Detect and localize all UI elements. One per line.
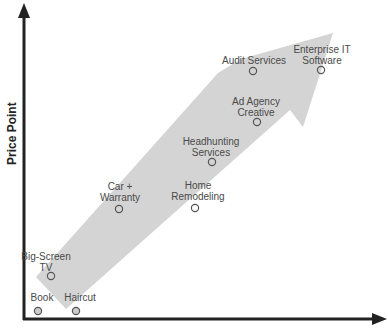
marker-home-remodeling: [191, 204, 198, 211]
label-line: Audit Services: [222, 55, 286, 66]
label-audit-services: Audit Services: [222, 55, 286, 66]
label-line: Car +: [100, 181, 140, 192]
y-axis-label: Price Point: [5, 102, 19, 165]
label-home-remodeling: Home Remodeling: [171, 180, 224, 202]
label-line: Creative: [232, 107, 280, 118]
label-line: Home: [171, 180, 224, 191]
marker-book: [34, 307, 41, 314]
label-haircut: Haircut: [64, 292, 96, 303]
label-line: Book: [31, 292, 54, 303]
label-big-screen-tv: Big-Screen TV: [21, 251, 70, 273]
label-line: TV: [21, 262, 70, 273]
label-line: Enterprise IT: [293, 44, 350, 55]
label-line: Haircut: [64, 292, 96, 303]
label-line: Warranty: [100, 192, 140, 203]
trend-arrow: [36, 33, 333, 309]
label-enterprise-it: Enterprise IT Software: [293, 44, 350, 66]
marker-haircut: [72, 307, 79, 314]
label-line: Big-Screen: [21, 251, 70, 262]
label-line: Remodeling: [171, 191, 224, 202]
label-line: Headhunting: [183, 136, 240, 147]
label-headhunting: Headhunting Services: [183, 136, 240, 158]
label-line: Software: [293, 55, 350, 66]
label-book: Book: [31, 292, 54, 303]
label-line: Services: [183, 147, 240, 158]
label-ad-agency: Ad Agency Creative: [232, 96, 280, 118]
label-car-warranty: Car + Warranty: [100, 181, 140, 203]
label-line: Ad Agency: [232, 96, 280, 107]
x-axis-arrowhead-icon: [372, 313, 387, 325]
y-axis-arrowhead-icon: [18, 3, 30, 18]
